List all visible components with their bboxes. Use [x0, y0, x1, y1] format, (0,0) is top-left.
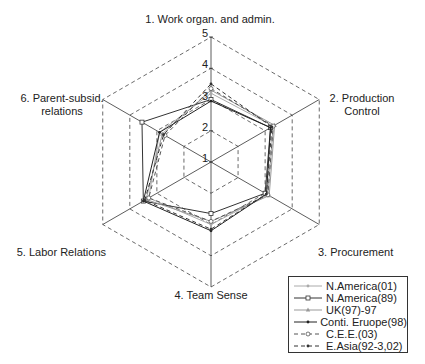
data-point-marker	[162, 133, 165, 136]
data-point-marker	[209, 212, 213, 216]
tick-label: 3	[202, 91, 208, 102]
axis-label-line: 4. Team Sense	[155, 289, 267, 302]
legend-label: N.America(01)	[326, 280, 397, 292]
legend-item: Conti. Eruope(98)	[289, 316, 407, 328]
data-point-marker	[209, 219, 213, 223]
data-point-marker	[210, 82, 213, 85]
axis-label-2: 2. ProductionControl	[322, 92, 402, 118]
axis-label-6: 6. Parent-subsid.relations	[6, 92, 118, 118]
tick-label: 5	[202, 28, 208, 39]
data-point-marker	[210, 100, 213, 103]
legend-item: E.Asia(92-3,02)	[289, 340, 407, 352]
tick-label: 1	[202, 153, 208, 164]
series-line	[145, 84, 272, 229]
legend-swatch-icon	[293, 328, 323, 340]
legend-label: Conti. Eruope(98)	[320, 316, 407, 328]
legend-item: N.America(89)	[289, 292, 407, 304]
axis-label-line: Control	[322, 105, 402, 118]
axis-label-4: 4. Team Sense	[155, 289, 267, 302]
axis-label-5: 5. Labor Relations	[6, 246, 106, 259]
axis-label-line: 2. Production	[322, 92, 402, 105]
data-point-marker	[158, 131, 161, 134]
radar-grid	[103, 37, 320, 287]
legend-swatch-icon	[293, 292, 323, 304]
legend-swatch-icon	[293, 280, 323, 292]
axis-label-line: 3. Procurement	[318, 246, 408, 259]
legend-label: N.America(89)	[326, 292, 397, 304]
axis-label-3: 3. Procurement	[318, 246, 408, 259]
axis-label-line: relations	[6, 105, 118, 118]
legend-swatch-icon	[293, 304, 323, 316]
chart-legend: N.America(01)N.America(89)UK(97)-97Conti…	[288, 276, 408, 353]
axis-label-line: 1. Work organ. and admin.	[140, 13, 280, 26]
legend-swatch-icon	[293, 340, 323, 352]
data-point-marker	[140, 120, 144, 124]
legend-label: C.E.E.(03)	[326, 328, 377, 340]
axis-label-1: 1. Work organ. and admin.	[140, 13, 280, 26]
radar-series	[140, 82, 277, 232]
tick-label: 2	[202, 122, 208, 133]
tick-label: 4	[202, 59, 208, 70]
data-point-marker	[209, 87, 213, 91]
data-point-marker	[270, 125, 273, 128]
legend-item: UK(97)-97	[289, 304, 407, 316]
legend-item: C.E.E.(03)	[289, 328, 407, 340]
data-point-marker	[210, 228, 213, 231]
data-point-marker	[143, 199, 146, 202]
data-point-marker	[265, 193, 268, 196]
axis-label-line: 6. Parent-subsid.	[6, 92, 118, 105]
legend-item: N.America(01)	[289, 280, 407, 292]
data-point-marker	[210, 92, 213, 95]
axis-label-line: 5. Labor Relations	[6, 246, 106, 259]
legend-label: E.Asia(92-3,02)	[326, 340, 402, 352]
legend-swatch-icon	[293, 316, 317, 328]
data-point-marker	[147, 196, 151, 200]
legend-label: UK(97)-97	[326, 304, 377, 316]
